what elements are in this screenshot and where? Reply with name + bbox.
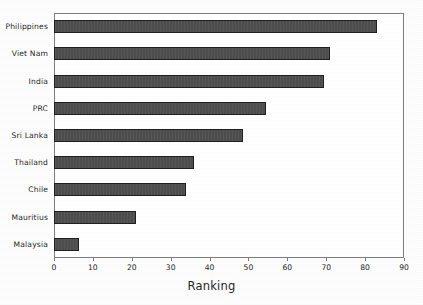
category-label-chile: Chile: [28, 176, 48, 203]
x-tick-mark-60: [287, 258, 288, 261]
x-tick-label-60: 60: [282, 263, 292, 272]
bar-chile: [54, 183, 186, 196]
x-tick-mark-30: [171, 258, 172, 261]
bar-row: [54, 40, 404, 67]
bars-layer: [54, 13, 404, 258]
x-tick-label-20: 20: [127, 263, 137, 272]
category-label-prc: PRC: [33, 95, 48, 122]
bar-viet-nam: [54, 47, 330, 60]
category-label-philippines: Philippines: [5, 13, 48, 40]
x-tick-label-70: 70: [321, 263, 331, 272]
category-label-thailand: Thailand: [14, 149, 48, 176]
bar-row: [54, 67, 404, 94]
x-tick-label-40: 40: [205, 263, 215, 272]
x-tick-label-10: 10: [88, 263, 98, 272]
x-tick-label-90: 90: [399, 263, 409, 272]
category-axis-labels: PhilippinesViet NamIndiaPRCSri LankaThai…: [0, 13, 51, 258]
bar-row: [54, 231, 404, 258]
x-tick-mark-50: [248, 258, 249, 261]
bar-row: [54, 149, 404, 176]
bar-row: [54, 122, 404, 149]
bar-row: [54, 95, 404, 122]
x-tick-mark-70: [326, 258, 327, 261]
x-axis-title: Ranking: [0, 279, 423, 293]
value-axis-ticks: 0102030405060708090: [54, 258, 404, 280]
x-tick-label-30: 30: [166, 263, 176, 272]
bar-row: [54, 176, 404, 203]
x-tick-mark-80: [365, 258, 366, 261]
bar-thailand: [54, 156, 194, 169]
category-label-malaysia: Malaysia: [14, 231, 48, 258]
bar-malaysia: [54, 238, 79, 251]
x-tick-label-50: 50: [244, 263, 254, 272]
category-label-viet-nam: Viet Nam: [12, 40, 48, 67]
bar-chart-figure: PhilippinesViet NamIndiaPRCSri LankaThai…: [0, 0, 423, 305]
category-label-india: India: [29, 67, 48, 94]
x-tick-mark-10: [93, 258, 94, 261]
bar-india: [54, 75, 324, 88]
x-tick-label-0: 0: [52, 263, 57, 272]
bar-row: [54, 204, 404, 231]
bar-philippines: [54, 20, 377, 33]
category-label-mauritius: Mauritius: [12, 204, 48, 231]
bar-prc: [54, 102, 266, 115]
x-tick-label-80: 80: [360, 263, 370, 272]
x-tick-mark-90: [404, 258, 405, 261]
x-tick-mark-0: [54, 258, 55, 261]
category-label-sri-lanka: Sri Lanka: [12, 122, 48, 149]
bar-row: [54, 13, 404, 40]
x-tick-mark-20: [132, 258, 133, 261]
x-tick-mark-40: [210, 258, 211, 261]
bar-mauritius: [54, 211, 136, 224]
bar-sri-lanka: [54, 129, 243, 142]
